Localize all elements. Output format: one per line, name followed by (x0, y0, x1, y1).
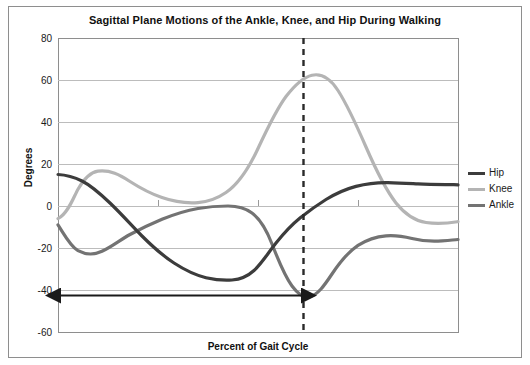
legend-swatch-hip (468, 172, 485, 175)
plot-frame (59, 39, 459, 333)
chart-figure: Sagittal Plane Motions of the Ankle, Kne… (0, 0, 530, 365)
chart-legend: Hip Knee Ankle (468, 165, 522, 213)
legend-label-hip: Hip (489, 168, 504, 178)
legend-item-ankle[interactable]: Ankle (468, 197, 522, 213)
legend-item-hip[interactable]: Hip (468, 165, 522, 181)
plot-canvas (0, 0, 530, 365)
legend-swatch-ankle (468, 204, 485, 207)
legend-label-knee: Knee (489, 184, 512, 194)
legend-swatch-knee (468, 188, 485, 191)
legend-label-ankle: Ankle (489, 200, 514, 210)
legend-item-knee[interactable]: Knee (468, 181, 522, 197)
